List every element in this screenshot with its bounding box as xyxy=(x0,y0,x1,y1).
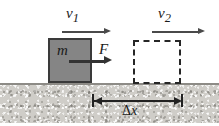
velocity-initial-label: v1 xyxy=(66,6,79,25)
force-arrow-shaft xyxy=(69,60,106,63)
physics-diagram: v1 v2 m F Δx xyxy=(0,0,219,126)
force-label: F xyxy=(99,42,108,57)
displacement-line xyxy=(94,100,180,102)
displacement-variable-symbol: x xyxy=(131,103,137,118)
velocity-initial-symbol: v xyxy=(66,5,73,21)
velocity-initial-subscript: 1 xyxy=(73,11,79,25)
velocity-final-symbol: v xyxy=(158,5,165,21)
displacement-delta-symbol: Δ xyxy=(122,103,131,118)
displacement-arrow-head-left-icon xyxy=(94,97,102,105)
mass-label: m xyxy=(57,43,68,58)
displacement-label: Δx xyxy=(122,104,137,118)
ground-surface-line xyxy=(0,83,219,85)
velocity-initial-arrow-head-icon xyxy=(104,28,111,34)
velocity-final-label: v2 xyxy=(158,6,171,25)
force-arrow-head-icon xyxy=(104,56,112,64)
velocity-initial-arrow-shaft xyxy=(62,31,106,33)
velocity-final-subscript: 2 xyxy=(165,11,171,25)
block-final-position xyxy=(133,40,181,84)
ground-surface xyxy=(0,83,219,123)
velocity-final-arrow-shaft xyxy=(152,31,200,33)
velocity-final-arrow-head-icon xyxy=(198,28,205,34)
displacement-arrow-head-right-icon xyxy=(174,97,182,105)
